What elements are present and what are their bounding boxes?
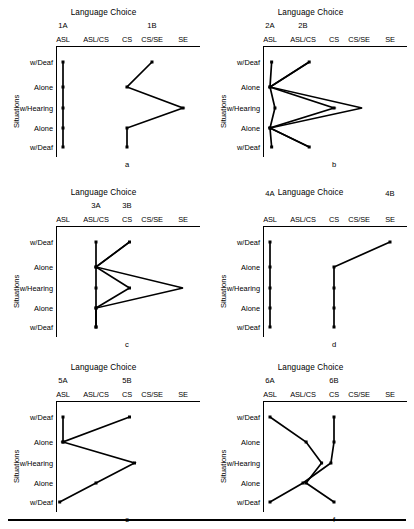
series-line-2a — [270, 62, 275, 147]
data-point — [95, 287, 98, 290]
data-point — [58, 501, 61, 504]
chart-panel-d: Language Choice4A4BASLASL/CSCSCS/SESEw/D… — [207, 180, 414, 355]
data-point — [269, 326, 272, 329]
data-point — [302, 482, 305, 485]
data-point — [128, 287, 131, 290]
data-point — [333, 501, 336, 504]
panel-letter-d: d — [332, 340, 336, 349]
plot-lines — [207, 180, 414, 360]
data-point — [151, 61, 154, 64]
panel-letter-c: c — [125, 340, 129, 349]
plot-lines — [0, 180, 207, 360]
plot-lines — [207, 0, 414, 180]
data-point — [329, 462, 332, 465]
data-point — [133, 462, 136, 465]
data-point — [305, 441, 308, 444]
data-point — [62, 86, 65, 89]
series-line-2b — [270, 62, 334, 147]
data-point — [389, 241, 392, 244]
data-point — [182, 107, 185, 110]
series-line-3b-outer — [96, 242, 183, 327]
data-point — [333, 441, 336, 444]
data-point — [270, 61, 273, 64]
data-point — [333, 107, 336, 110]
chart-panel-f: Language Choice6A6BASLASL/CSCSCS/SESEw/D… — [207, 355, 414, 529]
series-line-4b — [334, 242, 390, 327]
data-point — [333, 326, 336, 329]
chart-panel-a: Language Choice1A1BASLASL/CSCSCS/SESEw/D… — [0, 0, 207, 180]
data-point — [269, 266, 272, 269]
data-point — [333, 266, 336, 269]
data-point — [269, 307, 272, 310]
data-point — [62, 146, 65, 149]
plot-lines — [0, 355, 207, 529]
series-line-5b — [60, 417, 135, 502]
data-point — [273, 107, 276, 110]
data-point — [126, 127, 129, 130]
data-point — [269, 241, 272, 244]
plot-lines — [0, 0, 207, 180]
data-point — [62, 441, 65, 444]
chart-panel-e: Language Choice5A5BASLASL/CSCSCS/SESEw/D… — [0, 355, 207, 529]
chart-panel-c: Language Choice3A3BASLASL/CSCSCS/SESEw/D… — [0, 180, 207, 355]
data-point — [126, 86, 129, 89]
panel-letter-b: b — [332, 160, 336, 169]
series-line-2b-outer — [270, 62, 362, 147]
data-point — [62, 107, 65, 110]
figure-panel-grid: Language Choice1A1BASLASL/CSCSCS/SESEw/D… — [0, 0, 414, 529]
chart-panel-b: Language Choice2A2BASLASL/CSCSCS/SESEw/D… — [207, 0, 414, 180]
plot-lines — [207, 355, 414, 529]
data-point — [270, 146, 273, 149]
data-point — [128, 416, 131, 419]
data-point — [62, 61, 65, 64]
data-point — [269, 416, 272, 419]
series-line-6b — [270, 417, 334, 502]
data-point — [126, 146, 129, 149]
data-point — [62, 416, 65, 419]
data-point — [333, 307, 336, 310]
series-line-6a — [270, 417, 334, 502]
data-point — [269, 501, 272, 504]
panel-letter-a: a — [125, 160, 129, 169]
data-point — [95, 241, 98, 244]
figure-bottom-rule — [8, 519, 406, 521]
data-point — [320, 462, 323, 465]
data-point — [269, 287, 272, 290]
data-point — [333, 287, 336, 290]
data-point — [62, 127, 65, 130]
series-line-1b — [127, 62, 183, 147]
data-point — [95, 482, 98, 485]
data-point — [333, 416, 336, 419]
